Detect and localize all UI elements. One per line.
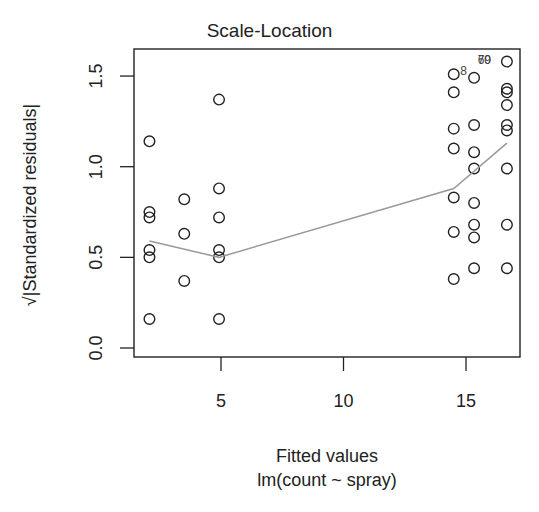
point-labels: 87069 [460, 53, 491, 78]
x-tick-label: 5 [216, 391, 226, 411]
data-point [502, 56, 513, 67]
svg-text:0.5: 0.5 [86, 245, 106, 270]
data-point [469, 232, 480, 243]
y-axis: 0.00.51.01.5 [86, 64, 134, 361]
data-point [469, 120, 480, 131]
data-point [179, 194, 190, 205]
data-point [448, 192, 459, 203]
point-label: 8 [460, 64, 467, 78]
data-point [144, 136, 155, 147]
data-point [469, 198, 480, 209]
data-point [214, 183, 225, 194]
scale-location-plot: 0.00.51.01.5 51015 87069 √|Standardized … [0, 0, 539, 512]
data-point [448, 87, 459, 98]
data-point [502, 219, 513, 230]
data-point [448, 143, 459, 154]
data-point [179, 276, 190, 287]
data-point [469, 73, 480, 84]
smoother-line [149, 143, 506, 257]
x-tick-label: 15 [456, 391, 476, 411]
data-point [448, 69, 459, 80]
model-formula-subtitle: lm(count ~ spray) [134, 470, 520, 491]
data-point [214, 314, 225, 325]
data-point [502, 263, 513, 274]
y-tick-label: 0.5 [86, 245, 106, 270]
y-tick-label: 1.5 [86, 64, 106, 89]
x-tick-label: 10 [333, 391, 353, 411]
data-point [214, 212, 225, 223]
data-point [144, 252, 155, 263]
data-point [469, 219, 480, 230]
data-point [469, 263, 480, 274]
svg-text:1.5: 1.5 [86, 64, 106, 89]
data-point [502, 163, 513, 174]
data-point [144, 314, 155, 325]
svg-text:√|Standardized residuals|: √|Standardized residuals| [20, 104, 40, 306]
svg-text:1.0: 1.0 [86, 154, 106, 179]
data-point [469, 147, 480, 158]
y-tick-label: 1.0 [86, 154, 106, 179]
svg-text:0.0: 0.0 [86, 335, 106, 360]
data-point [448, 123, 459, 134]
y-axis-label: √|Standardized residuals| [20, 104, 40, 306]
data-point [448, 274, 459, 285]
x-axis: 51015 [216, 357, 476, 411]
x-axis-label: Fitted values [134, 446, 520, 467]
data-point [448, 227, 459, 238]
point-label: 69 [478, 53, 492, 67]
y-tick-label: 0.0 [86, 335, 106, 360]
data-point [502, 100, 513, 111]
data-point [214, 94, 225, 105]
data-points [144, 56, 512, 324]
data-point [179, 228, 190, 239]
plot-frame [134, 49, 520, 357]
